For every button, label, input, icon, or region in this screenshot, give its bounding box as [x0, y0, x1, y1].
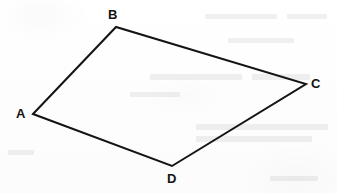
vertex-label-a: A — [16, 107, 26, 120]
vertex-label-c: C — [311, 77, 321, 90]
quadrilateral-outline — [33, 27, 306, 166]
vertex-label-d: D — [167, 172, 177, 185]
quadrilateral-svg — [0, 0, 337, 193]
geometry-figure: A B C D — [0, 0, 337, 193]
vertex-label-b: B — [108, 8, 118, 21]
